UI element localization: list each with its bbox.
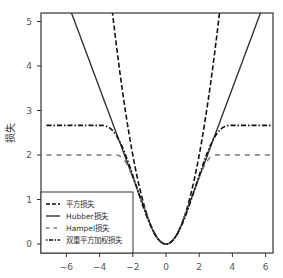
x-tick-label: −4 (93, 262, 107, 272)
x-tick-label: 6 (263, 262, 269, 272)
x-tick-label: 0 (163, 262, 169, 272)
x-tick-label: 4 (230, 262, 236, 272)
y-tick-label: 4 (26, 61, 32, 71)
legend-label-square: 平方损失 (66, 199, 95, 209)
loss-function-chart: −6−4−20246 012345 损失 平方损失 Hubber损失 Hampe… (0, 0, 283, 278)
x-tick-label: −2 (126, 262, 139, 272)
y-tick-label: 0 (26, 239, 32, 249)
x-tick-label: −6 (60, 262, 74, 272)
x-axis-ticks: −6−4−20246 (60, 253, 269, 272)
y-axis-label: 损失 (4, 123, 16, 143)
legend-label-hampel: Hampel损失 (66, 223, 110, 233)
y-axis-ticks: 012345 (26, 17, 41, 250)
x-tick-label: 2 (196, 262, 202, 272)
y-tick-label: 3 (26, 106, 32, 116)
y-tick-label: 5 (26, 17, 32, 27)
y-tick-label: 1 (26, 195, 32, 205)
legend-label-biweight: 双重平方加权损失 (66, 235, 123, 245)
legend: 平方损失 Hubber损失 Hampel损失 双重平方加权损失 (41, 192, 133, 253)
legend-label-huber: Hubber损失 (66, 211, 109, 221)
y-tick-label: 2 (26, 150, 32, 160)
